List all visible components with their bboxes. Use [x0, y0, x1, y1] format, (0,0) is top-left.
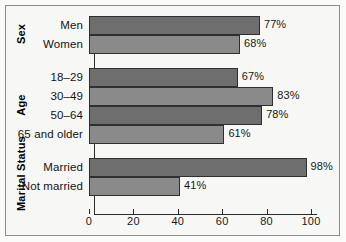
bar-row: 83%: [89, 87, 273, 106]
bar-value-label: 67%: [242, 70, 264, 82]
bar: [89, 177, 180, 196]
category-tick-label: Not married: [22, 180, 83, 192]
chart-frame: 020406080100 77%68%67%83%78%61%98%41% Me…: [5, 5, 340, 236]
bar-row: 41%: [89, 177, 180, 196]
bar: [89, 68, 238, 87]
bar: [89, 35, 240, 54]
category-tick-label: Men: [60, 19, 83, 31]
x-axis-tick-label: 20: [127, 215, 140, 227]
category-tick-label: Married: [43, 161, 83, 173]
bar-row: 98%: [89, 158, 307, 177]
bar: [89, 125, 224, 144]
x-axis-tick-mark: [267, 209, 268, 214]
bar-value-label: 77%: [264, 18, 286, 30]
bar: [89, 106, 262, 125]
category-tick-label: Women: [43, 38, 83, 50]
bar-value-label: 41%: [184, 179, 206, 191]
bar: [89, 87, 273, 106]
x-axis-tick-label: 0: [86, 215, 92, 227]
category-tick-label: 50–64: [51, 109, 83, 121]
category-tick-label: 65 and older: [18, 128, 83, 140]
x-axis-tick-label: 40: [171, 215, 184, 227]
bar-row: 68%: [89, 35, 240, 54]
group-title: Sex: [15, 0, 27, 69]
x-axis-tick-mark: [222, 209, 223, 214]
bar-value-label: 61%: [228, 127, 250, 139]
x-axis-tick-mark: [178, 209, 179, 214]
x-axis-tick-mark: [133, 209, 134, 214]
x-axis-tick-label: 100: [302, 215, 321, 227]
group-title: Age: [15, 70, 27, 140]
bar-row: 67%: [89, 68, 238, 87]
x-axis-tick-mark: [311, 209, 312, 214]
bar-value-label: 78%: [266, 108, 288, 120]
bar-row: 61%: [89, 125, 224, 144]
bar-value-label: 68%: [244, 37, 266, 49]
bar-row: 78%: [89, 106, 262, 125]
group-title: Marital Status: [15, 141, 27, 211]
x-axis-tick-label: 60: [216, 215, 229, 227]
x-axis-tick-mark: [89, 209, 90, 214]
category-tick-label: 18–29: [51, 71, 83, 83]
x-axis-tick-label: 80: [260, 215, 273, 227]
bar-value-label: 98%: [311, 160, 333, 172]
bar-value-label: 83%: [277, 89, 299, 101]
bar: [89, 16, 260, 35]
category-tick-label: 30–49: [51, 90, 83, 102]
bar: [89, 158, 307, 177]
chart-figure: 020406080100 77%68%67%83%78%61%98%41% Me…: [0, 0, 346, 242]
bar-row: 77%: [89, 16, 260, 35]
